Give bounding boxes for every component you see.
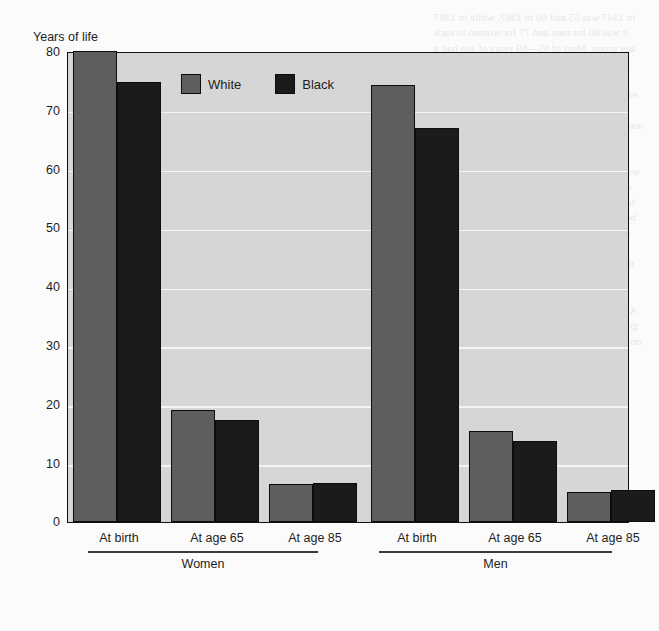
bar-men-at-birth-white[interactable] — [371, 85, 415, 522]
x-tick-women-at-age-85: At age 85 — [268, 531, 362, 545]
x-tick-men-at-birth: At birth — [370, 531, 464, 545]
bar-series-container — [68, 53, 628, 522]
legend-label-black: Black — [302, 77, 334, 92]
group-label-men: Men — [379, 557, 612, 571]
y-tick-60: 60 — [30, 163, 60, 177]
bar-women-at-birth-white[interactable] — [73, 51, 117, 522]
legend-label-white: White — [208, 77, 241, 92]
y-tick-70: 70 — [30, 104, 60, 118]
y-tick-10: 10 — [30, 457, 60, 471]
legend: White Black — [181, 74, 334, 94]
bar-men-at-age-65-black[interactable] — [513, 441, 557, 522]
y-tick-0: 0 — [30, 515, 60, 529]
y-tick-30: 30 — [30, 339, 60, 353]
legend-item-white[interactable]: White — [181, 74, 241, 94]
group-rule-women — [88, 551, 318, 553]
bar-men-at-birth-black[interactable] — [415, 128, 459, 522]
bar-women-at-age-65-white[interactable] — [171, 410, 215, 522]
y-tick-40: 40 — [30, 280, 60, 294]
y-tick-20: 20 — [30, 398, 60, 412]
y-tick-50: 50 — [30, 221, 60, 235]
bar-men-at-age-85-white[interactable] — [567, 492, 611, 522]
bar-men-at-age-85-black[interactable] — [611, 490, 655, 522]
bar-women-at-birth-black[interactable] — [117, 82, 161, 522]
x-tick-men-at-age-85: At age 85 — [566, 531, 659, 545]
y-axis-title: Years of life — [33, 30, 98, 44]
bar-women-at-age-85-black[interactable] — [313, 483, 357, 522]
legend-item-black[interactable]: Black — [275, 74, 334, 94]
bar-men-at-age-65-white[interactable] — [469, 431, 513, 522]
x-tick-women-at-birth: At birth — [72, 531, 166, 545]
group-label-women: Women — [88, 557, 318, 571]
bar-women-at-age-65-black[interactable] — [215, 420, 259, 522]
black-swatch-icon — [275, 74, 295, 94]
bar-women-at-age-85-white[interactable] — [269, 484, 313, 522]
x-tick-women-at-age-65: At age 65 — [170, 531, 264, 545]
x-tick-men-at-age-65: At age 65 — [468, 531, 562, 545]
plot-area — [67, 52, 629, 523]
group-rule-men — [379, 551, 612, 553]
y-tick-80: 80 — [30, 45, 60, 59]
white-swatch-icon — [181, 74, 201, 94]
